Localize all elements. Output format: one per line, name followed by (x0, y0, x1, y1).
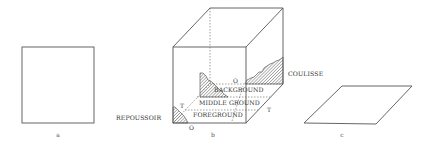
diagram-canvas: a BACKGROUND MIDDLE GROUND FOREGROUND CO… (0, 0, 434, 144)
coulisse-wing (245, 57, 283, 84)
label-foreground: FOREGROUND (193, 111, 243, 118)
caption-c: c (340, 131, 344, 138)
caption-a: a (56, 131, 60, 138)
label-repoussoir: REPOUSSOIR (116, 114, 161, 121)
caption-b: b (211, 131, 215, 138)
square-shape (22, 47, 94, 123)
cube-top-face (173, 8, 283, 47)
marker-o-top: O (233, 77, 238, 84)
parallelogram-shape (304, 86, 412, 124)
panel-c: c (304, 86, 412, 138)
panel-b: BACKGROUND MIDDLE GROUND FOREGROUND COUL… (116, 8, 324, 138)
marker-t-left: T (180, 102, 184, 109)
label-middle-ground: MIDDLE GROUND (199, 99, 260, 106)
panel-a: a (22, 47, 94, 138)
marker-o-bottom: O (189, 124, 194, 131)
label-background: BACKGROUND (214, 86, 264, 93)
marker-t-right: T (267, 106, 271, 113)
background-wing-left (200, 73, 228, 97)
label-coulisse: COULISSE (288, 70, 324, 77)
